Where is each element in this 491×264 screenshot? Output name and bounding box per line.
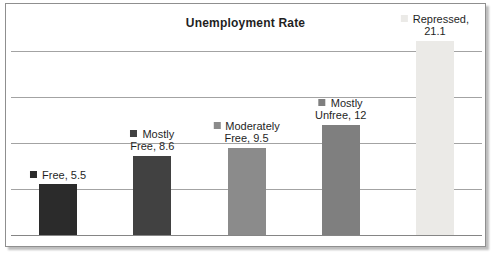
series-marker-icon: [401, 15, 408, 22]
bar-repressed: [416, 41, 454, 235]
data-label-line: Unfree, 12: [315, 109, 366, 122]
data-label-free: Free, 5.5: [30, 169, 86, 182]
chart-frame: Unemployment Rate Free, 5.5MostlyFree, 8…: [5, 3, 486, 247]
bar-free: [39, 184, 77, 235]
data-label-line: Repressed,: [401, 13, 469, 26]
data-label-mostly-free: MostlyFree, 8.6: [130, 128, 174, 153]
gridline-15: [11, 97, 482, 98]
gridline-20: [11, 51, 482, 52]
series-marker-icon: [30, 171, 37, 178]
chart-canvas: Unemployment Rate Free, 5.5MostlyFree, 8…: [0, 0, 491, 264]
data-label-mostly-unfree: MostlyUnfree, 12: [315, 97, 366, 122]
data-label-line: Free, 5.5: [30, 169, 86, 182]
bar-mostly-unfree: [322, 125, 360, 235]
data-label-line: Mostly: [315, 97, 366, 110]
data-label-repressed: Repressed,21.1: [401, 13, 469, 38]
bar-moderately-free: [228, 148, 266, 235]
data-label-moderately-free: ModeratelyFree, 9.5: [213, 120, 279, 145]
series-marker-icon: [213, 122, 220, 129]
bar-mostly-free: [133, 156, 171, 235]
series-marker-icon: [319, 99, 326, 106]
data-label-line: Mostly: [130, 128, 174, 141]
data-label-line: 21.1: [401, 25, 469, 38]
data-label-line: Free, 8.6: [130, 140, 174, 153]
data-label-line: Free, 9.5: [213, 132, 279, 145]
data-label-line: Moderately: [213, 120, 279, 133]
x-axis-line: [11, 235, 482, 236]
series-marker-icon: [130, 130, 137, 137]
